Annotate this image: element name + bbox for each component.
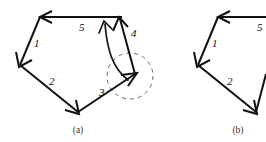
panel-b-edge-partial <box>256 74 266 112</box>
panel-a: 1 2 3 4 5 (a) <box>16 11 153 136</box>
panel-b-label-1: 1 <box>212 37 218 49</box>
panel-a-label-4: 4 <box>131 27 137 39</box>
panel-b-edge-2 <box>198 65 256 112</box>
panel-a-label-3: 3 <box>98 86 105 98</box>
panel-b-label-2: 2 <box>227 75 233 87</box>
panel-b: 1 2 5 (b) <box>194 11 266 136</box>
dashed-highlight-circle <box>107 53 153 99</box>
panel-b-label-5: 5 <box>257 21 263 33</box>
panel-a-label-5: 5 <box>79 21 85 33</box>
panel-a-label-1: 1 <box>34 37 40 49</box>
panel-a-label-2: 2 <box>49 75 55 87</box>
panel-a-caption: (a) <box>73 125 84 136</box>
panel-b-caption: (b) <box>232 125 243 136</box>
figure-container: 1 2 3 4 5 (a) 1 2 5 (b) <box>0 0 266 142</box>
figure-svg: 1 2 3 4 5 (a) 1 2 5 (b) <box>0 0 266 142</box>
panel-a-edge-2 <box>20 65 78 112</box>
